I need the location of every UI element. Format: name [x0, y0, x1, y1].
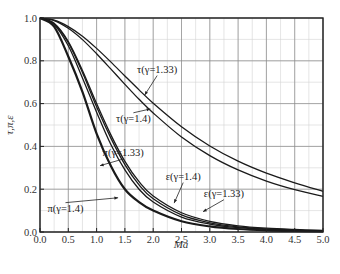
x-tick-label: 2.0 [147, 234, 160, 245]
x-axis-title: Ma [173, 238, 189, 250]
y-tick-label: 0.8 [24, 55, 37, 66]
x-tick-label: 4.0 [260, 234, 273, 245]
y-axis-title: τ,π,ε [3, 115, 15, 135]
y-tick-label: 0.0 [24, 227, 37, 238]
curve-label: ε(γ=1.4) [166, 171, 202, 183]
isentropic-ratio-chart: τ(γ=1.33)τ(γ=1.4)π(γ=1.33)ε(γ=1.4)ε(γ=1.… [0, 0, 340, 274]
x-tick-label: 1.5 [118, 234, 131, 245]
annotation-arrow [65, 198, 118, 203]
x-tick-label: 4.5 [288, 234, 301, 245]
curve-label: ε(γ=1.33) [204, 188, 245, 200]
x-tick-label: 5.0 [316, 234, 329, 245]
arrowhead-icon [145, 91, 148, 95]
x-tick-label: 1.0 [90, 234, 103, 245]
curve-label: π(γ=1.4) [47, 203, 83, 215]
y-tick-label: 0.2 [24, 184, 37, 195]
x-tick-label: 3.5 [232, 234, 245, 245]
curve-label: τ(γ=1.33) [137, 64, 178, 76]
curve-label: π(γ=1.33) [103, 147, 145, 159]
x-tick-label: 3.0 [203, 234, 216, 245]
y-tick-label: 0.4 [24, 141, 38, 152]
arrowhead-icon [100, 163, 104, 166]
x-tick-label: 0.5 [62, 234, 75, 245]
curve-label: τ(γ=1.4) [116, 113, 151, 125]
y-tick-label: 1.0 [24, 13, 37, 24]
y-tick-label: 0.6 [24, 98, 37, 109]
